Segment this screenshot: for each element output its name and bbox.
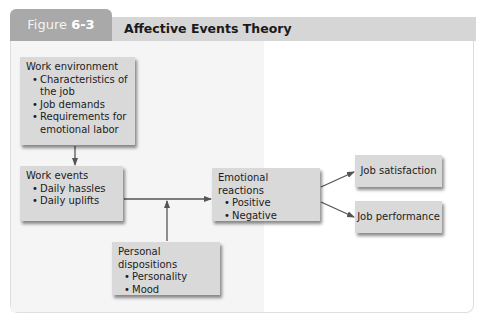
node-job-satisfaction: Job satisfaction <box>355 155 442 187</box>
node-title: Emotional reactions <box>218 172 314 197</box>
list-item: Daily hassles <box>32 183 117 196</box>
node-work-environment: Work environment Characteristics of the … <box>20 57 135 145</box>
list-item: Negative <box>224 210 314 223</box>
arrow-reactions-to-performance <box>321 202 354 217</box>
node-title: Work events <box>26 170 117 183</box>
list-item: Mood <box>124 284 214 297</box>
node-emotional-reactions: Emotional reactions Positive Negative <box>212 168 320 221</box>
list-item: Requirements for emotional labor <box>32 111 129 136</box>
list-item: Characteristics of the job <box>32 74 129 99</box>
list-item: Daily uplifts <box>32 195 117 208</box>
node-title: Work environment <box>26 61 129 74</box>
node-title: Job satisfaction <box>360 165 436 178</box>
node-job-performance: Job performance <box>355 201 442 233</box>
list-item: Personality <box>124 271 214 284</box>
list-item: Job demands <box>32 99 129 112</box>
list-item: Positive <box>224 197 314 210</box>
node-title: Job performance <box>357 211 440 224</box>
node-title: Personal dispositions <box>118 246 214 271</box>
node-work-events: Work events Daily hassles Daily uplifts <box>20 166 123 221</box>
arrow-reactions-to-satisfaction <box>321 172 354 187</box>
node-personal-dispositions: Personal dispositions Personality Mood <box>112 242 220 295</box>
